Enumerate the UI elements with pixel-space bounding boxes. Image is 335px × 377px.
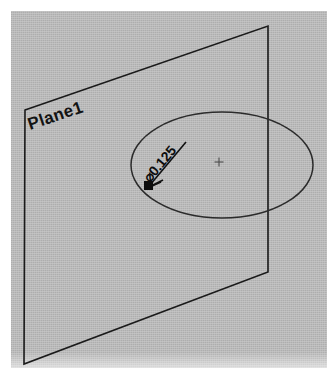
plane-label[interactable]: Plane1 bbox=[25, 98, 85, 134]
diameter-dimension[interactable]: ⌀0.125 bbox=[140, 142, 186, 190]
cad-drawing-canvas: ⌀0.125 Plane1 bbox=[0, 0, 335, 377]
diameter-dimension-text: ⌀0.125 bbox=[140, 142, 179, 185]
drawing-svg: ⌀0.125 Plane1 bbox=[0, 0, 335, 377]
circle-center-mark-icon bbox=[215, 158, 224, 167]
